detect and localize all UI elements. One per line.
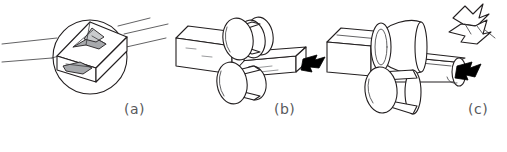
- upper-concave-roll: [371, 21, 427, 74]
- figure-root: (a) (b) (c): [0, 0, 507, 152]
- panel-a: [0, 0, 170, 152]
- panel-a-caption: (a): [124, 101, 145, 117]
- entry-bar-front-face: [327, 42, 371, 76]
- upper-roll-front-flange: [371, 23, 391, 71]
- panel-c-caption: (c): [468, 101, 488, 117]
- panel-c: [325, 0, 507, 152]
- fractured-fragment: [449, 4, 495, 44]
- panel-a-illustration: [0, 0, 170, 152]
- panel-b-caption: (b): [274, 101, 295, 117]
- upper-roll-back-flange: [415, 22, 427, 72]
- panel-b-illustration: [168, 0, 328, 152]
- panel-b: [168, 0, 328, 152]
- panel-c-illustration: [325, 0, 507, 152]
- lower-roll: [363, 65, 421, 114]
